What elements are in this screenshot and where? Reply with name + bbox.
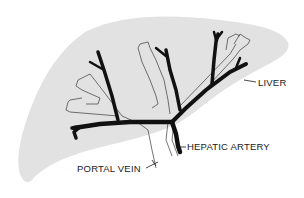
diagram-svg <box>0 0 304 198</box>
liver-leader-line <box>244 80 256 82</box>
liver-diagram: LIVER HEPATIC ARTERY PORTAL VEIN <box>0 0 304 198</box>
portal-vein-leader-line <box>146 162 158 168</box>
hepatic-artery-label: HEPATIC ARTERY <box>187 142 270 152</box>
portal-vein-label: PORTAL VEIN <box>77 164 141 174</box>
liver-label: LIVER <box>258 78 286 88</box>
